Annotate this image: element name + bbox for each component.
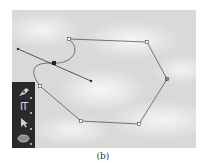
figure-caption: (b): [0, 151, 206, 161]
tool-palette: IT: [12, 82, 35, 148]
anchor-point[interactable]: [166, 78, 169, 81]
submenu-indicator: [30, 112, 32, 114]
submenu-indicator: [30, 143, 32, 145]
handle-point-left[interactable]: [17, 48, 20, 51]
path-outline[interactable]: [34, 39, 167, 124]
selection-tool-button[interactable]: [14, 116, 33, 130]
anchor-point[interactable]: [80, 120, 83, 123]
ellipse-icon: [17, 134, 30, 143]
anchor-point[interactable]: [138, 123, 141, 126]
pen-tool-button[interactable]: [14, 85, 33, 99]
ellipse-tool-button[interactable]: [14, 131, 33, 145]
selected-anchor-point[interactable]: [52, 61, 56, 65]
type-icon: IT: [20, 102, 27, 112]
type-tool-button[interactable]: IT: [14, 100, 33, 114]
arrow-icon: [19, 117, 29, 128]
submenu-indicator: [30, 128, 32, 130]
pen-icon: [18, 87, 30, 97]
anchor-point[interactable]: [39, 85, 42, 88]
submenu-indicator: [30, 97, 32, 99]
anchor-point[interactable]: [68, 38, 71, 41]
handle-point-right[interactable]: [90, 80, 93, 83]
anchor-point[interactable]: [146, 41, 149, 44]
